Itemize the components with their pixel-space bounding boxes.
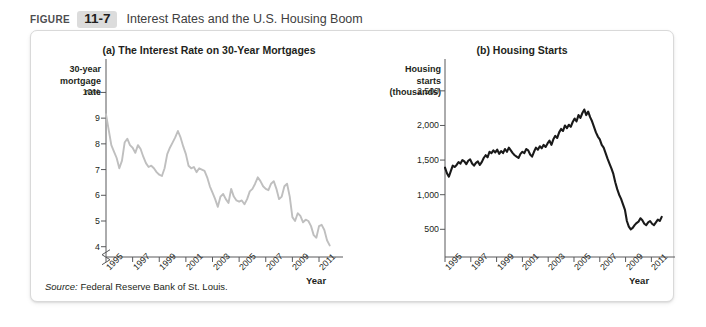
panel-b-title: (b) Housing Starts [361, 44, 675, 56]
y-tick-label: 8 [95, 139, 100, 149]
panel-b-housing-starts: (b) Housing Starts Housing starts (thous… [361, 31, 675, 301]
y-tick-label: 1,500 [417, 155, 439, 165]
figure-number-badge: 11-7 [77, 11, 117, 28]
y-tick-label: 1,000 [417, 190, 439, 200]
figure-title: Interest Rates and the U.S. Housing Boom [126, 12, 362, 26]
panel_b-svg [445, 77, 663, 257]
y-tick-label: 5 [95, 216, 100, 226]
source-text: Federal Reserve Bank of St. Louis. [78, 281, 228, 292]
y-tick-label: 7 [95, 165, 100, 175]
data-series-line [106, 114, 330, 245]
source-prefix: Source: [45, 281, 78, 292]
y-tick-label: 2,000 [417, 120, 439, 130]
data-series-line [445, 110, 662, 230]
panel-a-x-axis-label: Year [306, 275, 326, 286]
y-tick-label: 9 [95, 113, 100, 123]
y-tick-label: 500 [424, 224, 439, 234]
y-tick-label: 6 [95, 190, 100, 200]
panel-a-interest-rate: (a) The Interest Rate on 30-Year Mortgag… [31, 31, 361, 301]
figure-card: (a) The Interest Rate on 30-Year Mortgag… [30, 30, 674, 302]
figure-container: FIGURE 11-7 Interest Rates and the U.S. … [0, 0, 706, 327]
figure-header: FIGURE 11-7 Interest Rates and the U.S. … [30, 9, 363, 29]
figure-word-label: FIGURE [30, 14, 70, 25]
y-tick-label: 4 [95, 242, 100, 252]
y-tick-label: 10% [82, 87, 100, 97]
panel_a-svg [106, 77, 331, 257]
panel-b-x-axis-label: Year [629, 275, 649, 286]
panel-b-plot-area: 2,5002,0001,5001,00050019951997199920012… [445, 77, 663, 257]
panel-a-title: (a) The Interest Rate on 30-Year Mortgag… [31, 44, 361, 56]
y-tick-label: 2,500 [417, 86, 439, 96]
source-note: Source: Federal Reserve Bank of St. Loui… [45, 281, 228, 292]
panel-a-plot-area: 10%9876541995199719992001200320052007200… [106, 77, 331, 257]
